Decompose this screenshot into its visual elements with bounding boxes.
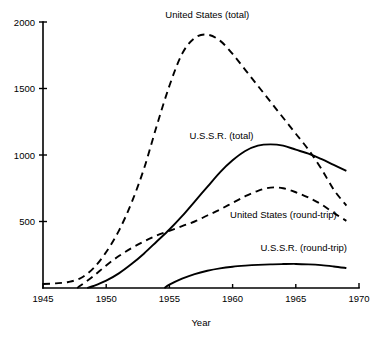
series-label-united-states-round-trip: United States (round-trip)	[230, 209, 337, 220]
x-tick-label-1970: 1970	[348, 293, 369, 304]
x-axis-title-group: Year	[191, 317, 210, 328]
x-tick-label-1950: 1950	[96, 293, 117, 304]
x-tick-label-1960: 1960	[222, 293, 243, 304]
y-tick-label-2000: 2000	[14, 17, 35, 28]
chart-figure: 500100015002000194519501955196019651970 …	[0, 0, 387, 339]
y-tick-label-500: 500	[19, 216, 35, 227]
y-tick-label-1000: 1000	[14, 150, 35, 161]
x-axis-title: Year	[191, 317, 210, 328]
series-label-ussr-total: U.S.S.R. (total)	[190, 130, 254, 141]
series-label-ussr-round-trip: U.S.S.R. (round-trip)	[260, 242, 347, 253]
x-tick-label-1955: 1955	[159, 293, 180, 304]
x-tick-label-1945: 1945	[32, 293, 53, 304]
series-label-united-states-total: United States (total)	[165, 9, 249, 20]
y-tick-label-1500: 1500	[14, 83, 35, 94]
x-tick-label-1965: 1965	[285, 293, 306, 304]
line-chart-svg: 500100015002000194519501955196019651970 …	[0, 0, 387, 339]
